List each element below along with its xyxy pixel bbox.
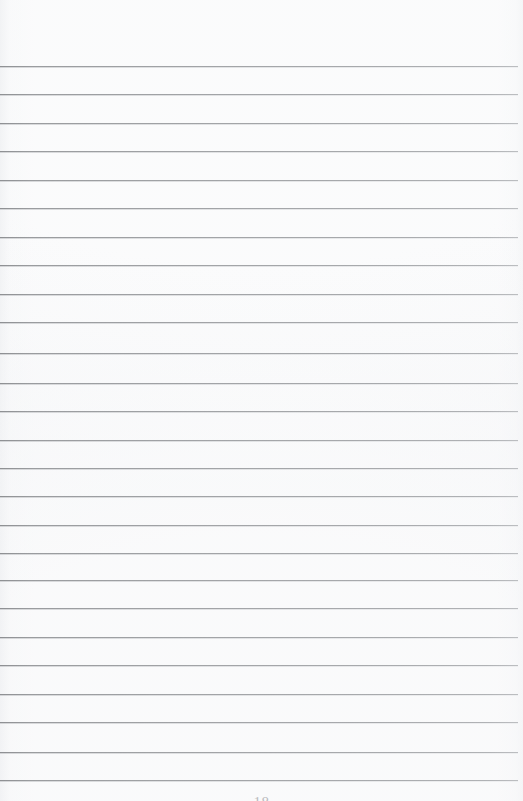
ruled-line <box>0 468 518 469</box>
ruled-line <box>0 496 518 497</box>
ruled-line <box>0 608 518 609</box>
ruled-line <box>0 180 518 181</box>
ruled-line <box>0 151 518 152</box>
ruled-line <box>0 411 518 412</box>
ruled-line <box>0 665 518 666</box>
ruled-line <box>0 525 518 526</box>
ruled-line <box>0 208 518 209</box>
ruled-line <box>0 752 518 753</box>
scanned-notebook-page: 18 <box>0 0 523 801</box>
ruled-line <box>0 294 518 295</box>
page-number: 18 <box>0 795 523 801</box>
ruled-line <box>0 353 518 354</box>
ruled-line <box>0 265 518 266</box>
ruled-line <box>0 780 518 781</box>
ruled-line <box>0 722 518 723</box>
ruled-line <box>0 123 518 124</box>
ruled-line <box>0 440 518 441</box>
ruled-line <box>0 553 518 554</box>
ruled-line <box>0 637 518 638</box>
ruled-line <box>0 694 518 695</box>
ruled-line <box>0 94 518 95</box>
ruled-line <box>0 322 518 323</box>
ruled-line <box>0 237 518 238</box>
ruled-line <box>0 383 518 384</box>
ruled-line <box>0 66 518 67</box>
ruled-lines-group <box>0 0 523 801</box>
ruled-line <box>0 580 518 581</box>
